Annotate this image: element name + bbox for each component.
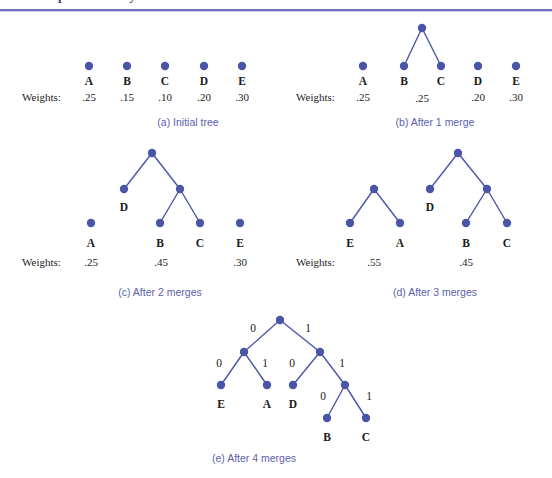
node-label-leaf-a: A xyxy=(396,238,404,250)
node-label-leaf-d: D xyxy=(120,202,128,214)
tree-edge xyxy=(350,189,374,223)
node-label-leaf-e: E xyxy=(238,76,246,88)
tree-node-leaf-e xyxy=(217,381,225,389)
tree-node-leaf-a xyxy=(263,381,271,389)
tree-node-leaf-d xyxy=(289,381,297,389)
node-label-leaf-b: B xyxy=(156,238,164,250)
tree-node-leaf-e xyxy=(236,219,244,227)
weights-row-label-c: Weights: xyxy=(22,257,61,268)
tree-edge xyxy=(327,385,345,418)
weight-value-leaf-a: .25 xyxy=(356,92,370,103)
node-label-leaf-d: D xyxy=(426,202,434,214)
tree-node-leaf-c xyxy=(161,62,169,70)
node-label-leaf-c: C xyxy=(437,76,445,88)
edge-label-e-3: 1 xyxy=(262,358,268,370)
node-label-leaf-a: A xyxy=(263,399,271,411)
tree-edge xyxy=(466,189,487,223)
tree-node-root xyxy=(276,316,284,324)
tree-node-leaf-e xyxy=(512,62,520,70)
tree-edge xyxy=(152,153,180,189)
edge-label-e-4: 0 xyxy=(289,358,295,370)
tree-node-root xyxy=(148,149,156,157)
node-label-leaf-b: B xyxy=(123,76,131,88)
weight-value-leaf-a: .25 xyxy=(84,257,98,268)
tree-node-leaf-e xyxy=(238,62,246,70)
tree-node-root-dbc xyxy=(454,149,462,157)
panel-caption-c: (c) After 2 merges xyxy=(118,287,201,298)
tree-node-internal-bc xyxy=(418,24,426,32)
tree-edge xyxy=(458,153,487,189)
edge-label-e-2: 0 xyxy=(216,358,222,370)
weight-value-leaf-d: .20 xyxy=(471,92,485,103)
weight-value-leaf-d: .20 xyxy=(197,92,211,103)
weight-value-leaf-e: .30 xyxy=(235,92,249,103)
tree-node-leaf-e xyxy=(346,219,354,227)
tree-node-leaf-c xyxy=(196,219,204,227)
tree-node-leaf-b xyxy=(123,62,131,70)
tree-node-leaf-d xyxy=(120,185,128,193)
node-label-leaf-b: B xyxy=(323,432,331,444)
tree-edge xyxy=(430,153,458,189)
edge-label-e-5: 1 xyxy=(339,358,345,370)
tree-edge xyxy=(422,28,441,66)
weight-value-leaf-e: .30 xyxy=(233,257,247,268)
node-label-leaf-c: C xyxy=(503,238,511,250)
tree-node-leaf-d xyxy=(474,62,482,70)
edge-label-e-6: 0 xyxy=(320,391,326,403)
tree-node-leaf-c xyxy=(437,62,445,70)
node-label-leaf-c: C xyxy=(161,76,169,88)
tree-node-internal-bc xyxy=(176,185,184,193)
node-label-leaf-e: E xyxy=(346,238,354,250)
subtree-weight-d-0: .55 xyxy=(367,257,381,268)
node-label-leaf-e: E xyxy=(512,76,520,88)
tree-edge xyxy=(180,189,200,223)
tree-node-internal-dbc xyxy=(316,348,324,356)
tree-edge xyxy=(293,352,320,385)
panel-c-tree xyxy=(87,149,244,227)
tree-node-leaf-c xyxy=(503,219,511,227)
tree-edge xyxy=(345,385,366,418)
tree-edge xyxy=(124,153,152,189)
tree-edge xyxy=(374,189,400,223)
node-label-leaf-c: C xyxy=(362,432,370,444)
node-label-leaf-a: A xyxy=(87,238,95,250)
tree-node-leaf-a xyxy=(359,62,367,70)
edge-label-e-1: 1 xyxy=(305,323,311,335)
tree-node-internal-bc xyxy=(483,185,491,193)
panel-caption-d: (d) After 3 merges xyxy=(393,287,477,298)
panel-caption-e: (e) After 4 merges xyxy=(212,453,296,464)
tree-node-leaf-c xyxy=(362,414,370,422)
edge-label-e-7: 1 xyxy=(366,391,372,403)
node-label-leaf-a: A xyxy=(85,76,93,88)
weights-row-label-b: Weights: xyxy=(296,92,335,103)
tree-node-leaf-b xyxy=(462,219,470,227)
tree-node-leaf-a xyxy=(396,219,404,227)
tree-node-leaf-b xyxy=(323,414,331,422)
weight-value-internal-bc: .25 xyxy=(415,93,429,104)
node-label-leaf-a: A xyxy=(359,76,367,88)
tree-edge xyxy=(404,28,422,66)
panel-caption-b: (b) After 1 merge xyxy=(396,117,475,128)
panel-a-tree xyxy=(85,62,246,70)
weights-row-label-d: Weights: xyxy=(296,257,335,268)
weight-value-leaf-c: .10 xyxy=(158,92,172,103)
panel-b-tree xyxy=(359,24,520,70)
tree-node-leaf-d xyxy=(426,185,434,193)
tree-edge xyxy=(160,189,180,223)
tree-node-leaf-a xyxy=(87,219,95,227)
panel-d-tree xyxy=(346,149,511,227)
node-label-leaf-d: D xyxy=(200,76,208,88)
tree-node-internal-bc xyxy=(341,381,349,389)
tree-edge xyxy=(280,320,320,352)
node-label-leaf-e: E xyxy=(217,399,225,411)
panel-caption-a: (a) Initial tree xyxy=(157,117,218,128)
tree-node-leaf-b xyxy=(156,219,164,227)
subtree-weight-c-0: .45 xyxy=(154,257,168,268)
node-label-leaf-d: D xyxy=(289,399,297,411)
weight-value-leaf-a: .25 xyxy=(82,92,96,103)
weight-value-leaf-b: .15 xyxy=(120,92,134,103)
node-label-leaf-d: D xyxy=(474,76,482,88)
weights-row-label-a: Weights: xyxy=(22,92,61,103)
node-label-leaf-c: C xyxy=(196,238,204,250)
weight-value-leaf-e: .30 xyxy=(509,92,523,103)
